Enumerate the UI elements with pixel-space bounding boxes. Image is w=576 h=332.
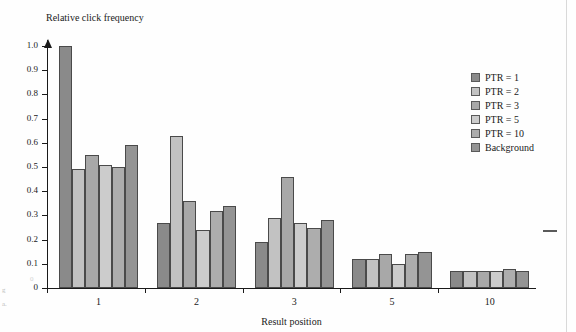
bar [321, 220, 334, 288]
y-tick: 0.5 [42, 167, 47, 168]
x-tick [340, 288, 341, 293]
figure-canvas: g a. 0 Relative click frequency 00.10.20… [0, 0, 576, 332]
x-tick [47, 288, 48, 293]
y-tick: 0.9 [42, 70, 47, 71]
bar [112, 167, 125, 288]
x-tick-label: 1 [96, 296, 101, 307]
y-tick-label: 0.2 [27, 234, 38, 244]
y-tick-label: 0.5 [27, 161, 38, 171]
bar [418, 252, 431, 288]
legend-swatch [471, 87, 480, 96]
bar [99, 165, 112, 288]
x-tick-label: 5 [390, 296, 395, 307]
y-tick-label: 0 [34, 282, 39, 292]
y-tick-label: 0.7 [27, 113, 38, 123]
bar [85, 155, 98, 288]
legend-label: PTR = 5 [485, 114, 519, 125]
bar [255, 242, 268, 288]
bar [490, 271, 503, 288]
y-tick-label: 0.8 [27, 88, 38, 98]
legend-swatch [471, 129, 480, 138]
bar [210, 211, 223, 288]
bar [450, 271, 463, 288]
y-tick-label: 0.9 [27, 64, 38, 74]
bar [352, 259, 365, 288]
y-tick: 0.6 [42, 143, 47, 144]
legend-label: PTR = 1 [485, 72, 519, 83]
margin-note-2: a. [2, 300, 7, 308]
x-tick-label: 2 [194, 296, 199, 307]
x-axis-line [47, 288, 536, 289]
bar [183, 201, 196, 288]
bar [223, 206, 236, 288]
legend-swatch [471, 143, 480, 152]
x-tick [243, 288, 244, 293]
legend-swatch [471, 115, 480, 124]
x-tick [438, 288, 439, 293]
y-tick-label: 0.6 [27, 137, 38, 147]
y-tick: 0.2 [42, 240, 47, 241]
y-tick-label: 1.0 [27, 40, 38, 50]
x-tick-label: 10 [485, 296, 495, 307]
y-tick: 0.7 [42, 119, 47, 120]
bar [59, 46, 72, 288]
bar [307, 228, 320, 288]
bar [294, 223, 307, 288]
legend-swatch [471, 101, 480, 110]
legend-label: PTR = 2 [485, 86, 519, 97]
legend-item: PTR = 1 [471, 70, 571, 84]
plot-area: 00.10.20.30.40.50.60.70.80.91.0 123510 R… [47, 34, 537, 288]
y-tick: 0.1 [42, 264, 47, 265]
legend-item: PTR = 5 [471, 112, 571, 126]
bar [503, 269, 516, 288]
legend: PTR = 1PTR = 2PTR = 3PTR = 5PTR = 10Back… [471, 70, 571, 154]
legend-label: PTR = 3 [485, 100, 519, 111]
legend-item: PTR = 10 [471, 126, 571, 140]
margin-note-1: g [2, 286, 6, 294]
x-axis-title: Result position [47, 316, 536, 327]
bar [405, 254, 418, 288]
bar [379, 254, 392, 288]
bar [463, 271, 476, 288]
legend-swatch [471, 73, 480, 82]
legend-item: Background [471, 140, 571, 154]
legend-item: PTR = 2 [471, 84, 571, 98]
legend-item: PTR = 3 [471, 98, 571, 112]
bar [366, 259, 379, 288]
y-tick: 0.8 [42, 94, 47, 95]
y-tick: 1.0 [42, 46, 47, 47]
y-tick: 0.4 [42, 191, 47, 192]
bar [157, 223, 170, 288]
y-tick-label: 0.3 [27, 209, 38, 219]
y-axis-line [47, 40, 48, 288]
bar [268, 218, 281, 288]
x-tick [145, 288, 146, 293]
y-tick-label: 0.1 [27, 258, 38, 268]
bar [196, 230, 209, 288]
x-tick-label: 3 [292, 296, 297, 307]
bar [392, 264, 405, 288]
bar [281, 177, 294, 288]
bar [170, 136, 183, 288]
bar [477, 271, 490, 288]
legend-label: Background [485, 142, 534, 153]
bar [516, 271, 529, 288]
y-tick: 0.3 [42, 215, 47, 216]
bar [125, 145, 138, 288]
legend-label: PTR = 10 [485, 128, 524, 139]
y-tick-label: 0.4 [27, 185, 38, 195]
page-edge-rule [566, 0, 567, 332]
bar [72, 169, 85, 288]
y-axis-title: Relative click frequency [46, 12, 144, 23]
page-margin-dash [543, 230, 557, 232]
